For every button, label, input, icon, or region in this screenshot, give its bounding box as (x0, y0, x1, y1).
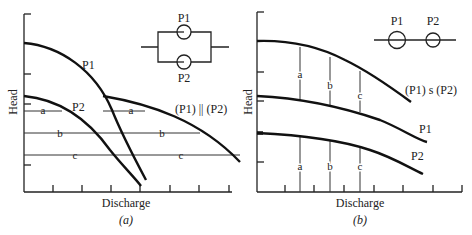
panel-a-parallel-schematic: P1 P2 (141, 11, 229, 85)
panel-a-level-c-label: c (73, 149, 78, 161)
panel-b-caption: (b) (353, 213, 367, 227)
panel-b-curve-p2 (257, 133, 423, 174)
panel-b-x-ticks (285, 185, 462, 192)
panel-b-label-p2: P2 (411, 149, 424, 163)
panel-b-level-c-label: c (358, 89, 363, 101)
schematic-a-label-p2: P2 (178, 71, 191, 85)
panel-a-label-p2: P2 (72, 100, 85, 114)
panel-b-level-b-label: b (327, 79, 333, 91)
panel-b-series-pumps: a b c a b c (P1) s (P2) P1 P2 Head Disch… (241, 12, 462, 227)
panel-b-xlabel: Discharge (336, 196, 384, 210)
panel-b-label-series: (P1) s (P2) (405, 83, 457, 97)
panel-b-curve-series (257, 41, 411, 102)
panel-b-level-c-label-lower: c (358, 160, 363, 172)
panel-b-level-b-label-lower: b (327, 160, 333, 172)
panel-b-ylabel: Head (241, 89, 255, 114)
panel-a-level-c-label-right: c (179, 149, 184, 161)
panel-b-y-ticks (257, 12, 264, 162)
schematic-b-label-p2: P2 (427, 14, 440, 28)
panel-b-series-schematic: P1 P2 (374, 14, 456, 49)
panel-a-level-a-label: a (41, 104, 46, 116)
panel-b-label-p1: P1 (419, 122, 432, 136)
panel-b-level-a-label-lower: a (298, 160, 303, 172)
panel-a-xlabel: Discharge (102, 196, 150, 210)
panel-a-parallel-pumps: a a b b c c P1 P2 (P1) || (P2) Head Disc… (6, 11, 240, 227)
panel-a-level-a-label-right: a (129, 104, 134, 116)
panel-a-label-p1: P1 (82, 58, 95, 72)
schematic-b-label-p1: P1 (391, 14, 404, 28)
panel-a-x-ticks (53, 185, 229, 192)
panel-a-y-ticks (24, 14, 31, 165)
panel-a-level-b-label: b (57, 127, 63, 139)
panel-a-level-b-label-right: b (159, 127, 165, 139)
panel-a-label-combined: (P1) || (P2) (175, 102, 227, 116)
panel-b-level-a-label: a (298, 68, 303, 80)
panel-a-caption: (a) (119, 213, 133, 227)
panel-a-ylabel: Head (6, 89, 20, 114)
schematic-a-label-p1: P1 (178, 11, 191, 25)
